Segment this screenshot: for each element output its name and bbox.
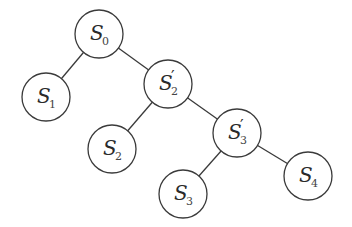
node-subscript: 4 — [311, 177, 318, 190]
nodes: S0S1S′2S2S′3S3S4 — [22, 10, 332, 218]
node-subscript: 2 — [115, 150, 122, 163]
node-S4: S4 — [284, 152, 332, 200]
node-prime: ′ — [171, 67, 175, 86]
node-prime: ′ — [240, 116, 244, 135]
node-S1: S1 — [22, 73, 70, 121]
node-S3p: S′3 — [213, 109, 261, 157]
node-S3: S3 — [159, 170, 207, 218]
node-S0: S0 — [75, 10, 123, 58]
node-subscript: 0 — [102, 35, 109, 48]
node-S2: S2 — [88, 125, 136, 173]
node-subscript: 2 — [171, 85, 178, 98]
edges — [46, 34, 308, 194]
node-subscript: 3 — [240, 134, 247, 147]
node-S2p: S′2 — [144, 60, 192, 108]
node-subscript: 1 — [49, 98, 56, 111]
node-subscript: 3 — [186, 195, 193, 208]
tree-diagram: S0S1S′2S2S′3S3S4 — [0, 0, 352, 227]
